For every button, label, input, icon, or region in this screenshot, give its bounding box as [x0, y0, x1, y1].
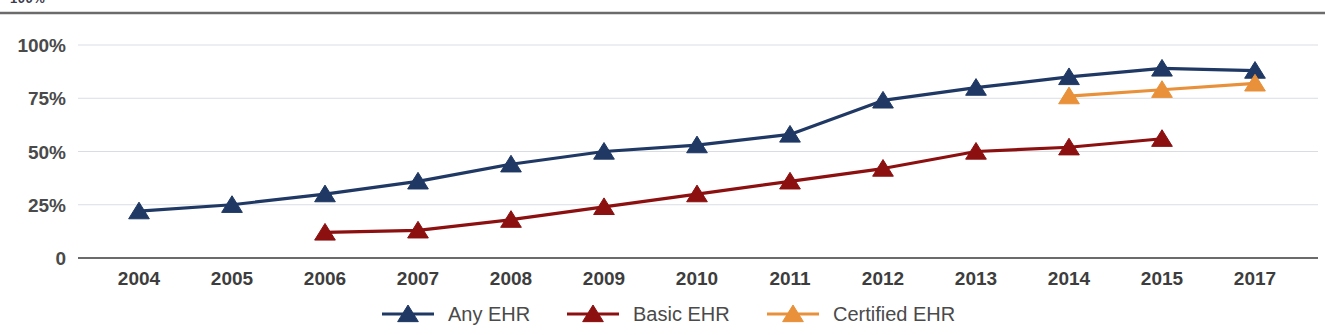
legend-label-any-ehr[interactable]: Any EHR: [448, 303, 530, 325]
y-axis-labels: 100%75%50%25%0: [17, 35, 66, 269]
x-tick-label-2010: 2010: [676, 268, 718, 289]
x-tick-label-2009: 2009: [583, 268, 625, 289]
x-tick-label-2012: 2012: [862, 268, 904, 289]
x-tick-label-2015: 2015: [1141, 268, 1184, 289]
y-tick-label-0: 100%: [17, 35, 66, 56]
series-line-basic-ehr: [325, 139, 1162, 233]
x-tick-label-2007: 2007: [397, 268, 439, 289]
y-tick-label-2: 50%: [28, 142, 66, 163]
y-tick-label-1: 75%: [28, 88, 66, 109]
series-layer: [129, 59, 1266, 240]
x-tick-label-2006: 2006: [304, 268, 346, 289]
legend-label-certified-ehr[interactable]: Certified EHR: [833, 303, 955, 325]
x-tick-label-2004: 2004: [118, 268, 161, 289]
x-tick-label-2005: 2005: [211, 268, 254, 289]
chart-legend: Any EHRBasic EHRCertified EHR: [382, 303, 955, 325]
x-axis-labels: 2004200520062007200820092010201120122013…: [118, 268, 1276, 289]
legend-label-basic-ehr[interactable]: Basic EHR: [633, 303, 730, 325]
x-tick-label-2008: 2008: [490, 268, 532, 289]
x-tick-label-2013: 2013: [955, 268, 997, 289]
y-tick-label-4: 0: [55, 248, 66, 269]
line-chart: 100% 100%75%50%25%0 20042005200620072008…: [0, 0, 1325, 335]
chart-canvas: 100%75%50%25%0 2004200520062007200820092…: [0, 0, 1325, 335]
y-tick-label-3: 25%: [28, 195, 66, 216]
x-tick-label-2014: 2014: [1048, 268, 1091, 289]
x-tick-label-2011: 2011: [769, 268, 811, 289]
x-tick-label-2017: 2017: [1234, 268, 1276, 289]
